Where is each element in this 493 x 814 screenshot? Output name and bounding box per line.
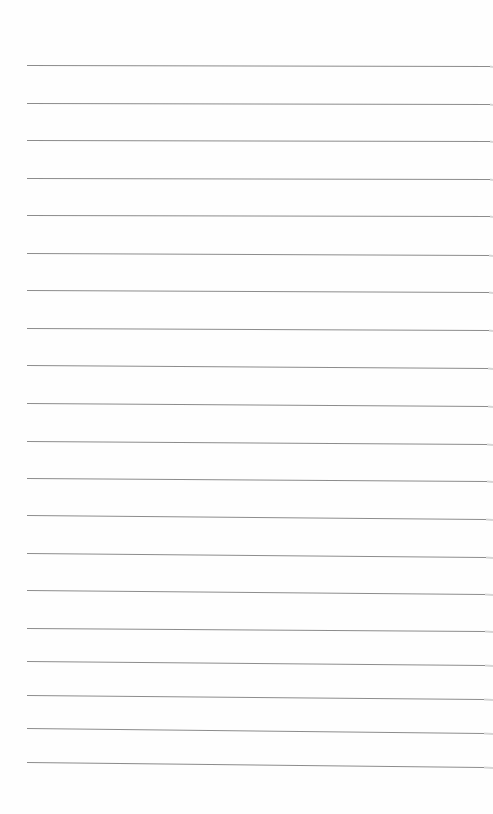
ruled-line [27, 216, 490, 217]
ruled-line [27, 404, 488, 407]
edge-shadow [484, 768, 493, 769]
ruled-line [27, 104, 490, 105]
ruled-line [27, 254, 489, 256]
ruled-line [27, 629, 485, 632]
edge-shadow [488, 369, 493, 370]
ruled-lines [0, 0, 493, 814]
edge-shadow [485, 632, 493, 633]
ruled-line [27, 516, 486, 520]
ruled-line [27, 179, 490, 180]
edge-shadow [486, 520, 493, 521]
ruled-line [27, 479, 487, 482]
edge-shadow [488, 407, 493, 408]
ruled-line [27, 442, 487, 445]
ruled-line [27, 329, 489, 331]
ruled-line [27, 696, 484, 700]
edge-shadow [485, 666, 493, 667]
lined-paper-page [0, 0, 493, 814]
edge-shadow [486, 558, 493, 559]
edge-shadow [489, 331, 493, 332]
ruled-line [27, 554, 486, 558]
ruled-line [27, 291, 489, 293]
ruled-line [27, 591, 485, 595]
ruled-line [27, 66, 490, 67]
ruled-line [27, 141, 490, 142]
ruled-line [27, 763, 484, 768]
edge-shadow [484, 700, 493, 701]
edge-shadow [484, 734, 493, 735]
ruled-line [27, 729, 484, 734]
ruled-line [27, 662, 485, 666]
edge-shadow [487, 445, 493, 446]
edge-shadow [489, 293, 493, 294]
edge-shadow [487, 482, 493, 483]
edge-shadow [489, 256, 493, 257]
edge-shadow [485, 595, 493, 596]
ruled-line [27, 366, 488, 369]
